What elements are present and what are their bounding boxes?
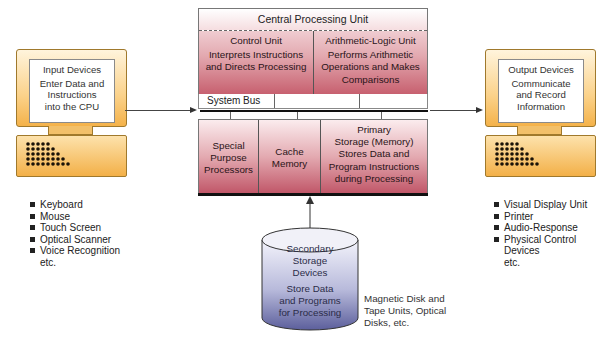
secondary-storage-desc: Store Data and Programs for Processing (262, 283, 358, 319)
list-item: Visual Display Unit (494, 199, 587, 211)
system-bus-label: System Bus (207, 94, 260, 108)
cpu-title: Central Processing Unit (199, 9, 427, 31)
bullet-icon (30, 214, 35, 219)
list-item: Printer (494, 211, 587, 223)
output-line: Communicate (499, 78, 583, 90)
list-item-label: Touch Screen (40, 222, 101, 233)
keypad-dots-icon (25, 141, 85, 171)
secondary-storage-title: Secondary Storage Devices (262, 243, 358, 279)
input-examples-list: Keyboard Mouse Touch Screen Optical Scan… (30, 199, 120, 269)
alu-line: Comparisons (314, 74, 427, 86)
primary-line: Primary (321, 124, 427, 136)
input-keyboard-icon (16, 135, 127, 177)
list-item-label: Visual Display Unit (504, 199, 587, 210)
cache-line: Cache (259, 146, 320, 158)
cpu-block: Central Processing Unit Control Unit Int… (198, 8, 428, 95)
output-line: and Record (499, 89, 583, 101)
output-keyboard-icon (485, 135, 596, 177)
output-monitor-neck (517, 126, 562, 135)
cache-memory: Cache Memory (259, 146, 320, 170)
input-line: Instructions (30, 89, 114, 101)
primary-line: during Processing (321, 173, 427, 185)
alu-line: Performs Arithmetic (314, 49, 427, 61)
special-line: Processors (199, 164, 258, 176)
list-item-label: Optical Scanner (40, 234, 111, 245)
list-item: Keyboard (30, 199, 120, 211)
bullet-icon (494, 202, 499, 207)
cpu-to-output-arrow (430, 110, 477, 111)
special-line: Purpose (199, 152, 258, 164)
bullet-icon (30, 202, 35, 207)
note-line: Tape Units, Optical (364, 305, 446, 317)
note-line: Magnetic Disk and (364, 293, 446, 305)
control-unit-title: Control Unit (199, 35, 313, 47)
output-line: Information (499, 101, 583, 113)
control-unit-line: and Directs Processing (199, 61, 313, 73)
bus-connector (359, 94, 360, 108)
input-device-screen: Input Devices Enter Data and Instruction… (29, 59, 115, 123)
alu-title: Arithmetic-Logic Unit (314, 35, 427, 47)
output-devices-title: Output Devices (499, 64, 583, 76)
system-bus-line (200, 110, 428, 112)
bus-connector (274, 94, 275, 108)
list-etc: etc. (30, 257, 120, 269)
bullet-icon (30, 225, 35, 230)
bus-connector (381, 112, 382, 119)
input-device-monitor: Input Devices Enter Data and Instruction… (16, 49, 127, 127)
special-line: Special (199, 140, 258, 152)
list-item-label: Physical Control (504, 234, 576, 245)
memory-processors-block: Special Purpose Processors Cache Memory … (198, 119, 428, 195)
list-item: Voice Recognition (30, 245, 120, 257)
note-line: Disks, etc. (364, 317, 446, 329)
input-monitor-neck (48, 126, 93, 135)
list-item-label: Audio-Response (504, 222, 578, 233)
special-purpose-processors: Special Purpose Processors (199, 140, 258, 177)
secondary-line: Devices (262, 267, 358, 279)
list-item: Touch Screen (30, 222, 120, 234)
output-device-screen: Output Devices Communicate and Record In… (498, 59, 584, 123)
secondary-line: Secondary (262, 243, 358, 255)
secondary-line: and Programs (262, 295, 358, 307)
bullet-icon (30, 248, 35, 253)
list-item-label: Mouse (40, 211, 70, 222)
output-device-monitor: Output Devices Communicate and Record In… (485, 49, 596, 127)
primary-line: Storage (Memory) (321, 136, 427, 148)
primary-line: Program Instructions (321, 161, 427, 173)
secondary-storage-examples: Magnetic Disk and Tape Units, Optical Di… (364, 293, 446, 329)
list-item: Mouse (30, 211, 120, 223)
output-examples-list: Visual Display Unit Printer Audio-Respon… (494, 199, 587, 269)
system-bus-row: System Bus (198, 94, 428, 109)
arithmetic-logic-unit: Arithmetic-Logic Unit Performs Arithmeti… (314, 35, 427, 86)
control-unit: Control Unit Interprets Instructions and… (199, 35, 313, 74)
primary-line: Stores Data and (321, 148, 427, 160)
list-item-label: Keyboard (40, 199, 83, 210)
list-item: Physical Control (494, 234, 587, 246)
control-unit-line: Interprets Instructions (199, 49, 313, 61)
list-item: Optical Scanner (30, 234, 120, 246)
cache-line: Memory (259, 158, 320, 170)
bullet-icon (30, 237, 35, 242)
secondary-line: for Processing (262, 307, 358, 319)
list-etc: etc. (494, 257, 587, 269)
arrowhead-right-icon (476, 107, 483, 113)
list-item-label: Voice Recognition (40, 245, 120, 256)
bullet-icon (494, 214, 499, 219)
list-item-continued: Devices (494, 245, 587, 257)
input-to-cpu-arrow (125, 110, 191, 111)
bus-connector (230, 112, 231, 119)
input-devices-title: Input Devices (30, 64, 114, 76)
list-item-label: Printer (504, 211, 533, 222)
bus-connector (297, 112, 298, 119)
primary-storage: Primary Storage (Memory) Stores Data and… (321, 124, 427, 185)
secondary-line: Store Data (262, 283, 358, 295)
input-line: into the CPU (30, 101, 114, 113)
list-item: Audio-Response (494, 222, 587, 234)
keypad-dots-icon (494, 141, 554, 171)
input-line: Enter Data and (30, 78, 114, 90)
arrowhead-right-icon (190, 107, 197, 113)
bullet-icon (494, 225, 499, 230)
secondary-line: Storage (262, 255, 358, 267)
alu-line: Operations and Makes (314, 61, 427, 73)
bullet-icon (494, 237, 499, 242)
